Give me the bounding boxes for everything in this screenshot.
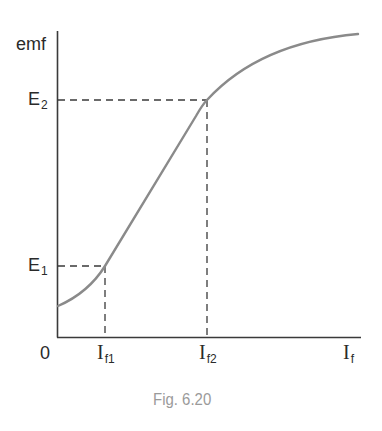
figure-caption: Fig. 6.20 xyxy=(153,390,211,410)
x-axis-label: If xyxy=(343,342,354,362)
x-tick-if2: If2 xyxy=(199,342,217,362)
y-axis-label: emf xyxy=(16,35,46,53)
emf-curve xyxy=(58,34,358,306)
chart-canvas xyxy=(0,0,382,431)
x-tick-if1: If1 xyxy=(97,342,115,362)
y-tick-e1: E1 xyxy=(28,256,48,274)
origin-label: 0 xyxy=(40,344,50,362)
magnetization-curve-figure: emf E2 E1 0 If1 If2 If Fig. 6.20 xyxy=(0,0,382,431)
y-tick-e2: E2 xyxy=(28,90,48,108)
